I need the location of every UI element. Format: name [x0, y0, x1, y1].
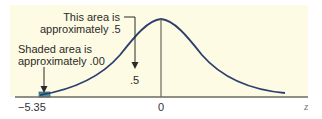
- left-annotation-line2: approximately .00: [18, 55, 105, 67]
- x-axis-label: z: [304, 100, 308, 112]
- half-value-label: .5: [130, 74, 139, 86]
- normal-curve-chart: This area is approximately .5 .5 Shaded …: [0, 0, 322, 119]
- top-annotation-line1: This area is: [40, 11, 120, 23]
- top-annotation-line2: approximately .5: [40, 23, 120, 35]
- left-annotation: Shaded area is approximately .00: [18, 43, 105, 67]
- x-tick-left: −5.35: [18, 101, 46, 113]
- x-tick-zero: 0: [158, 101, 164, 113]
- top-annotation: This area is approximately .5: [40, 11, 120, 35]
- left-annotation-line1: Shaded area is: [18, 43, 105, 55]
